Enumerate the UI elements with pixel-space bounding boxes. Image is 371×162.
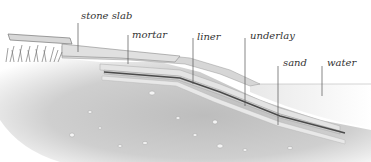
- label-sand: sand: [283, 58, 307, 68]
- cross-section-illustration: [0, 0, 371, 162]
- label-water: water: [327, 58, 356, 68]
- label-liner: liner: [197, 32, 221, 42]
- stone-slab: [8, 34, 72, 44]
- label-underlay: underlay: [250, 31, 295, 41]
- label-mortar: mortar: [132, 30, 167, 40]
- pond-edge-diagram: stone slab mortar liner underlay sand wa…: [0, 0, 371, 162]
- label-stone-slab: stone slab: [81, 11, 132, 21]
